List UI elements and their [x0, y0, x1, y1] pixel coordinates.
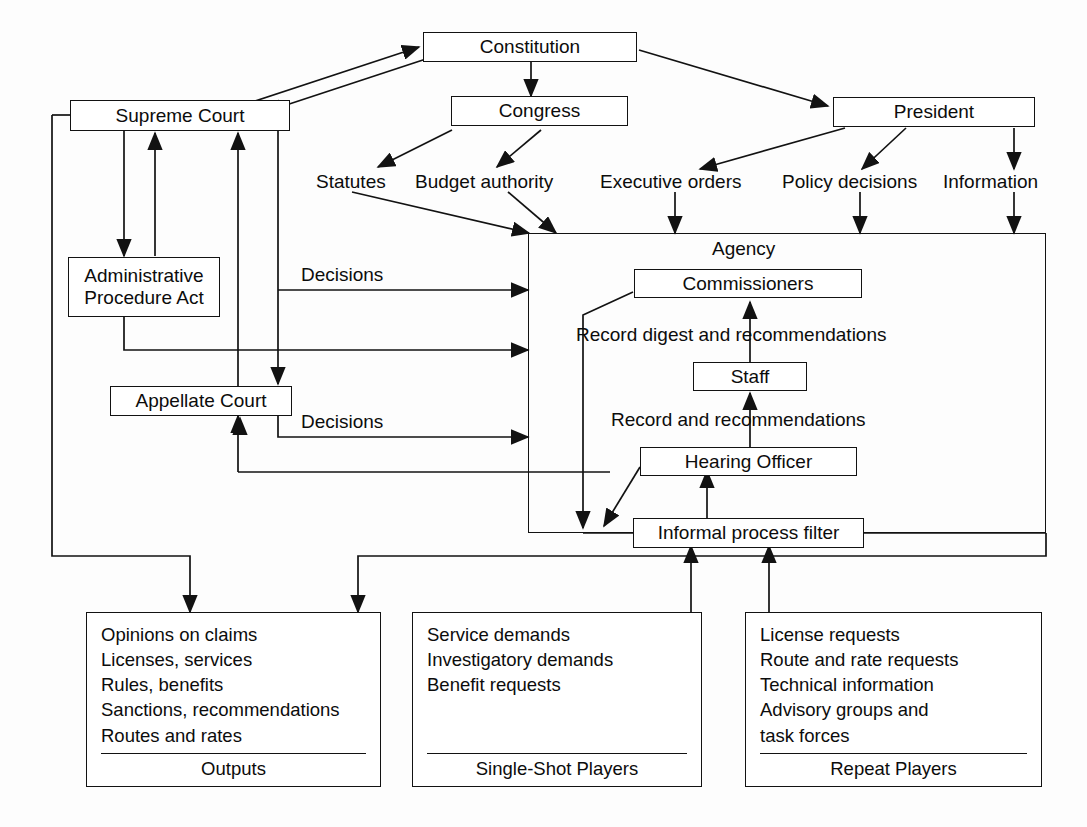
list-item: Investigatory demands: [427, 647, 701, 672]
panel-repeat-items: License requests Route and rate requests…: [746, 613, 1041, 753]
panel-outputs[interactable]: Opinions on claims Licenses, services Ru…: [86, 612, 381, 787]
node-president-label: President: [894, 101, 974, 123]
wire-president-to-policy-decisions: [862, 128, 906, 169]
node-congress-label: Congress: [499, 100, 580, 122]
list-item: Opinions on claims: [101, 622, 380, 647]
node-informal-process-filter[interactable]: Informal process filter: [633, 518, 864, 548]
list-item: Sanctions, recommendations: [101, 697, 380, 722]
label-decisions-lower: Decisions: [301, 411, 383, 433]
wire-statutes-to-agency: [352, 192, 529, 233]
list-item: License requests: [760, 622, 1041, 647]
label-policy-decisions: Policy decisions: [782, 171, 917, 193]
node-supreme-court[interactable]: Supreme Court: [70, 100, 290, 131]
wire-constitution-to-supremecourt: [265, 57, 432, 112]
list-item: Routes and rates: [101, 723, 380, 748]
node-agency-label: Agency: [712, 238, 775, 260]
node-commissioners[interactable]: Commissioners: [634, 269, 862, 298]
wire-president-to-executive-orders: [700, 128, 845, 169]
wire-constitution-to-president: [639, 50, 828, 106]
node-appellate-court[interactable]: Appellate Court: [110, 386, 292, 416]
apa-label-line2: Procedure Act: [84, 287, 203, 309]
node-administrative-procedure-act[interactable]: Administrative Procedure Act: [68, 257, 220, 317]
panel-single-shot-caption: Single-Shot Players: [413, 754, 701, 786]
wire-congress-to-budget: [497, 130, 541, 167]
list-item: Benefit requests: [427, 672, 701, 697]
label-executive-orders: Executive orders: [600, 171, 742, 193]
list-item: Route and rate requests: [760, 647, 1041, 672]
wire-congress-to-statutes: [378, 130, 452, 167]
node-commissioners-label: Commissioners: [683, 273, 814, 295]
label-information: Information: [943, 171, 1038, 193]
apa-label-line1: Administrative: [84, 265, 203, 287]
list-item: Technical information: [760, 672, 1041, 697]
node-congress[interactable]: Congress: [451, 96, 628, 126]
node-staff-label: Staff: [731, 366, 770, 388]
node-informal-process-filter-label: Informal process filter: [658, 522, 840, 544]
panel-outputs-caption: Outputs: [87, 754, 380, 786]
node-supreme-court-label: Supreme Court: [116, 105, 245, 127]
wire-apa-to-agency: [124, 316, 528, 350]
panel-single-shot-players[interactable]: Service demands Investigatory demands Be…: [412, 612, 702, 787]
list-item: Service demands: [427, 622, 701, 647]
diagram-canvas: Constitution Congress President Supreme …: [0, 0, 1087, 827]
panel-single-shot-items: Service demands Investigatory demands Be…: [413, 613, 701, 753]
list-item: task forces: [760, 723, 1041, 748]
node-hearing-officer[interactable]: Hearing Officer: [640, 447, 857, 476]
node-constitution-label: Constitution: [480, 36, 580, 58]
wire-budget-to-agency: [508, 192, 556, 233]
label-budget-authority: Budget authority: [415, 171, 553, 193]
panel-outputs-items: Opinions on claims Licenses, services Ru…: [87, 613, 380, 753]
wire-supremecourt-to-outputs: [52, 115, 190, 612]
list-item: Advisory groups and: [760, 697, 1041, 722]
node-staff[interactable]: Staff: [693, 362, 807, 391]
node-president[interactable]: President: [833, 97, 1035, 127]
list-item: Rules, benefits: [101, 672, 380, 697]
node-appellate-court-label: Appellate Court: [136, 390, 267, 412]
label-record-and-recommendations: Record and recommendations: [611, 409, 866, 431]
label-statutes: Statutes: [316, 171, 386, 193]
label-decisions-upper: Decisions: [301, 264, 383, 286]
list-item: Licenses, services: [101, 647, 380, 672]
wire-supremecourt-to-constitution: [246, 47, 419, 104]
node-hearing-officer-label: Hearing Officer: [685, 451, 812, 473]
node-constitution[interactable]: Constitution: [423, 32, 637, 62]
panel-repeat-caption: Repeat Players: [746, 754, 1041, 786]
label-record-digest-and-recommendations: Record digest and recommendations: [576, 324, 887, 346]
panel-repeat-players[interactable]: License requests Route and rate requests…: [745, 612, 1042, 787]
